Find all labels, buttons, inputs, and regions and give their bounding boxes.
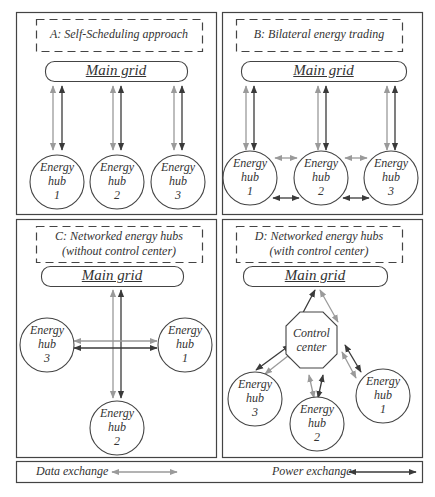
panel-a-main-grid-label: Main grid (45, 62, 187, 79)
panel-d-hub-1-label: Energyhub1 (356, 374, 410, 416)
panel-d-hub-3-label: Energyhub3 (228, 377, 282, 419)
panel-c-hub-1-label: Energyhub1 (158, 323, 212, 365)
legend-data-exchange-label: Data exchange (36, 464, 108, 479)
panel-d-hub-2-label: Energyhub2 (290, 402, 344, 444)
panel-b-hub-1-label: Energyhub1 (223, 156, 277, 198)
panel-c-hub-2-label: Energyhub2 (90, 406, 144, 448)
panel-b-title: B: Bilateral energy trading (236, 27, 402, 42)
panel-a-title: A: Self-Scheduling approach (36, 27, 202, 42)
panel-d-control-center-label: Controlcenter (286, 326, 337, 354)
panel-b-hub-2-label: Energyhub2 (294, 156, 348, 198)
panel-b-main-grid-label: Main grid (241, 62, 406, 79)
legend-power-exchange-label: Power exchange (272, 464, 352, 479)
panel-c-title-line2: (without control center) (36, 244, 202, 259)
panel-a-hub-1-label: Energyhub1 (30, 160, 84, 202)
panel-a-hub-3-label: Energyhub3 (151, 160, 205, 202)
panel-d-title-line2: (with control center) (236, 244, 402, 259)
panel-d-title-line1: D: Networked energy hubs (236, 229, 402, 244)
panel-c-hub-3-label: Energyhub3 (20, 323, 74, 365)
panel-b-hub-3-label: Energyhub3 (364, 156, 418, 198)
panel-d-main-grid-label: Main grid (243, 267, 387, 284)
panel-a-hub-2-label: Energyhub2 (90, 160, 144, 202)
panel-c-title-line1: C: Networked energy hubs (36, 229, 202, 244)
panel-c-main-grid-label: Main grid (41, 267, 183, 284)
